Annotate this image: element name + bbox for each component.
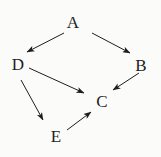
edge-b-to-c [113,73,139,90]
node-c: C [96,93,107,110]
node-e: E [51,128,61,145]
edge-a-to-b [92,33,130,53]
node-b: B [135,57,146,74]
node-a: A [67,14,79,31]
node-d: D [12,56,24,73]
edge-e-to-c [67,112,91,130]
edge-a-to-d [27,33,64,52]
graph-diagram: A B C D E [0,0,161,157]
edge-d-to-c [29,68,84,93]
graph-edges [0,0,161,157]
edge-d-to-e [21,80,43,120]
